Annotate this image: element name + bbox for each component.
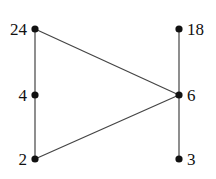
node-24 (31, 25, 38, 32)
node-2 (31, 155, 38, 162)
node-4 (31, 91, 38, 98)
label-6: 6 (187, 86, 196, 105)
label-18: 18 (187, 20, 204, 39)
label-24: 24 (10, 20, 28, 39)
label-4: 4 (19, 86, 28, 105)
nodes (31, 25, 182, 162)
labels: 24 4 2 18 6 3 (10, 20, 204, 169)
edges (35, 29, 179, 159)
edge-24-6 (35, 29, 179, 95)
label-3: 3 (187, 150, 196, 169)
node-18 (175, 25, 182, 32)
node-3 (175, 155, 182, 162)
hasse-diagram: 24 4 2 18 6 3 (0, 0, 216, 179)
label-2: 2 (19, 150, 28, 169)
node-6 (175, 91, 182, 98)
edge-2-6 (35, 95, 179, 159)
